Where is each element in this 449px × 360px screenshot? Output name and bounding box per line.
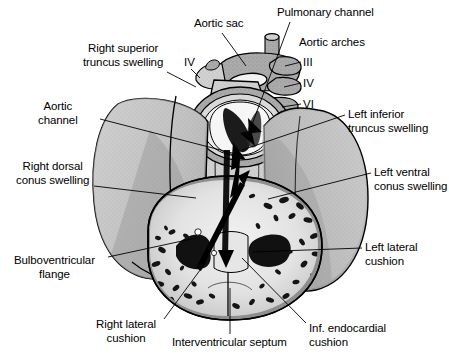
label-right-lateral-cushion-line-1: Right lateral: [96, 318, 156, 332]
label-right-dorsal-conus-swelling-line-1: Right dorsal: [16, 160, 89, 174]
label-left-lateral-cushion-line-1: Left lateral: [365, 241, 418, 255]
label-right-dorsal-conus-swelling: Right dorsalconus swelling: [16, 160, 89, 187]
anatomical-figure: Aortic sacPulmonary channelAortic arches…: [0, 0, 449, 360]
label-aortic-sac-line-1: Aortic sac: [194, 17, 244, 31]
label-pulmonary-channel: Pulmonary channel: [277, 6, 374, 20]
label-right-lateral-cushion: Right lateralcushion: [96, 318, 156, 345]
label-right-lateral-cushion-line-2: cushion: [96, 332, 156, 346]
label-aortic-channel-line-1: Aortic: [38, 100, 78, 114]
label-left-ventral-conus-swelling-line-1: Left ventral: [374, 166, 447, 180]
label-aortic-channel-line-2: channel: [38, 114, 78, 128]
numeral-arch-iv: IV: [303, 77, 314, 89]
label-inf-endocardial-cushion: Inf. endocardialcushion: [309, 322, 386, 349]
label-right-superior-truncus-swelling: Right superiortruncus swelling: [83, 42, 163, 69]
label-bulboventricular-flange: Bulboventricularflange: [14, 254, 95, 281]
label-bulboventricular-flange-line-1: Bulboventricular: [14, 254, 95, 268]
label-interventricular-septum-line-1: Interventricular septum: [172, 336, 287, 350]
label-right-superior-truncus-swelling-line-1: Right superior: [83, 42, 163, 56]
label-left-ventral-conus-swelling: Left ventralconus swelling: [374, 166, 447, 193]
label-bulboventricular-flange-line-2: flange: [14, 268, 95, 282]
label-aortic-arches: Aortic arches: [299, 36, 365, 50]
leader-right-superior-truncus-swelling: [167, 72, 196, 87]
label-interventricular-septum: Interventricular septum: [172, 336, 287, 350]
label-aortic-arches-line-1: Aortic arches: [299, 36, 365, 50]
label-left-lateral-cushion: Left lateralcushion: [365, 241, 418, 268]
label-right-dorsal-conus-swelling-line-2: conus swelling: [16, 174, 89, 188]
label-left-ventral-conus-swelling-line-2: conus swelling: [374, 180, 447, 194]
label-right-superior-truncus-swelling-line-2: truncus swelling: [83, 56, 163, 70]
label-left-inferior-truncus-swelling-line-2: truncus swelling: [348, 122, 428, 136]
label-aortic-sac: Aortic sac: [194, 17, 244, 31]
label-left-inferior-truncus-swelling: Left inferiortruncus swelling: [348, 108, 428, 135]
label-inf-endocardial-cushion-line-1: Inf. endocardial: [309, 322, 386, 336]
label-pulmonary-channel-line-1: Pulmonary channel: [277, 6, 374, 20]
numeral-arch-vi: VI: [303, 98, 314, 110]
numeral-arch-iv-left-side: IV: [184, 56, 195, 68]
label-left-inferior-truncus-swelling-line-1: Left inferior: [348, 108, 428, 122]
numeral-arch-iii: III: [303, 56, 313, 68]
label-left-lateral-cushion-line-2: cushion: [365, 255, 418, 269]
label-aortic-channel: Aorticchannel: [38, 100, 78, 127]
label-inf-endocardial-cushion-line-2: cushion: [309, 336, 386, 350]
